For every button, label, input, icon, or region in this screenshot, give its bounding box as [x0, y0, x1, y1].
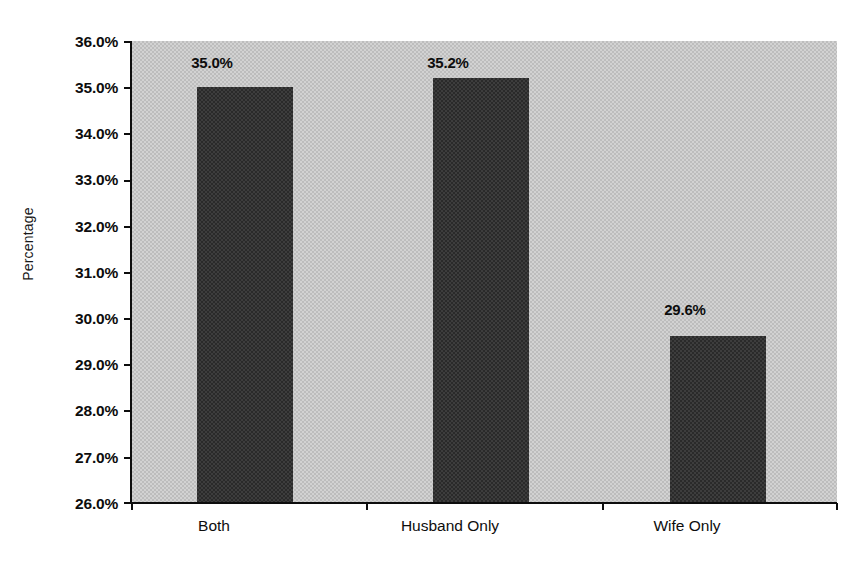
y-tick-label: 36.0% — [36, 34, 118, 50]
y-tick-label: 34.0% — [36, 126, 118, 142]
y-tick-label: 30.0% — [36, 311, 118, 327]
y-tick-label: 28.0% — [36, 403, 118, 419]
y-tick-label: 33.0% — [36, 172, 118, 188]
x-tick-mark — [836, 503, 838, 510]
bar-chart: Percentage 36.0% 35.0% 34.0% 33.0% 32.0%… — [0, 0, 857, 574]
bar-both — [197, 87, 293, 502]
y-axis-line — [130, 41, 132, 504]
x-tick-mark — [131, 503, 133, 510]
bar-wife-only — [670, 336, 766, 502]
plot-area — [132, 41, 837, 502]
y-tick-label: 32.0% — [36, 219, 118, 235]
y-axis-title: Percentage — [20, 164, 36, 324]
x-axis-line — [130, 502, 837, 504]
bar-husband-only — [433, 78, 529, 502]
x-category-label-husband-only: Husband Only — [400, 517, 500, 535]
x-category-label-both: Both — [164, 517, 264, 535]
y-tick-label: 26.0% — [36, 496, 118, 512]
x-category-label-wife-only: Wife Only — [637, 517, 737, 535]
y-tick-label: 31.0% — [36, 265, 118, 281]
y-tick-label: 29.0% — [36, 357, 118, 373]
x-tick-mark — [602, 503, 604, 510]
data-label-both: 35.0% — [162, 54, 262, 71]
y-axis-tick-labels: 36.0% 35.0% 34.0% 33.0% 32.0% 31.0% 30.0… — [36, 0, 118, 574]
x-tick-mark — [366, 503, 368, 510]
data-label-wife-only: 29.6% — [635, 301, 735, 318]
data-label-husband-only: 35.2% — [398, 54, 498, 71]
y-tick-label: 27.0% — [36, 450, 118, 466]
y-tick-label: 35.0% — [36, 80, 118, 96]
